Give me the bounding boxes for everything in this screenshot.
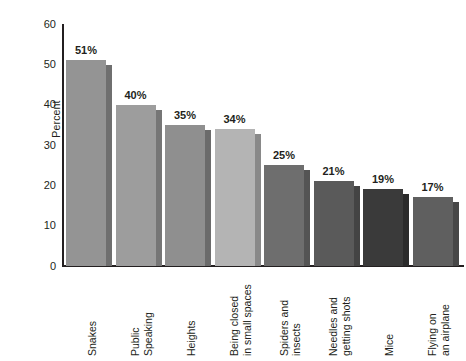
bar-group: 40% [116,24,162,266]
bar [314,181,354,266]
bar [215,129,255,266]
y-tick-label-10: 10 [30,220,56,231]
y-tick-label-50: 50 [30,59,56,70]
bar-chart: Percent 6050403020100 51%40%35%34%25%21%… [0,0,466,361]
x-category-label: in small spaces [241,284,254,356]
x-category-label: getting shots [340,296,353,356]
bar [116,105,156,266]
x-category-label: insects [290,323,303,356]
bar [363,189,403,266]
y-tick-label-60: 60 [30,19,56,30]
bar-group: 17% [413,24,459,266]
bar-shadow [304,170,310,266]
x-category-label: Spiders and [278,300,291,356]
bar-group: 51% [66,24,112,266]
bar [66,60,106,266]
y-tick-label-0: 0 [30,261,56,272]
bar-value-label: 25% [258,149,310,161]
bar-shadow [403,194,409,266]
x-category-label: Heights [185,320,198,356]
bar [413,197,453,266]
bar-group: 34% [215,24,261,266]
x-category-label: Public [129,327,142,356]
bar-value-label: 17% [407,181,459,193]
x-category-label: Needles and [327,297,340,356]
x-category-label: Speaking [142,312,155,356]
y-tick-label-40: 40 [30,99,56,110]
x-category-label: Mice [383,334,396,356]
x-category-label: Snakes [86,321,99,356]
bar [165,125,205,266]
plot-area: 51%40%35%34%25%21%19%17% [64,24,464,266]
bar-shadow [205,130,211,266]
bar-shadow [354,186,360,266]
bar-value-label: 35% [159,109,211,121]
bar-shadow [156,110,162,266]
bar-value-label: 51% [60,44,112,56]
bar-group: 25% [264,24,310,266]
bar-value-label: 21% [308,165,360,177]
bar-group: 35% [165,24,211,266]
bar-value-label: 40% [110,89,162,101]
y-tick-label-20: 20 [30,180,56,191]
bar-group: 19% [363,24,409,266]
x-category-label: Flying on [426,313,439,356]
bar [264,165,304,266]
bar-value-label: 34% [209,113,261,125]
bar-shadow [453,202,459,266]
bar-value-label: 19% [357,173,409,185]
x-category-label: an airplane [439,304,452,356]
bar-group: 21% [314,24,360,266]
x-category-label: Being closed [228,296,241,356]
y-tick-label-30: 30 [30,140,56,151]
